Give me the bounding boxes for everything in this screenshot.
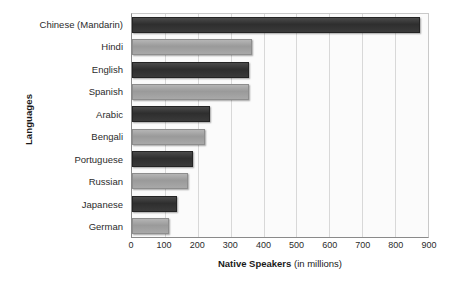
bar-slot [132,81,428,103]
bar[interactable] [132,62,249,78]
x-tick-label: 500 [289,240,304,250]
category-label: English [36,58,127,81]
bar-slot [132,215,428,237]
bar-slot [132,148,428,170]
x-tick-label: 700 [355,240,370,250]
x-axis-tick-labels: 0100200300400500600700800900 [131,240,429,253]
bar-slot [132,170,428,192]
bar-chart: Languages Chinese (Mandarin)HindiEnglish… [0,0,457,285]
category-label: Portuguese [36,148,127,171]
category-label: German [36,216,127,239]
x-tick-label: 600 [322,240,337,250]
category-label: Spanish [36,81,127,104]
category-label: Japanese [36,193,127,216]
x-tick-label: 400 [256,240,271,250]
x-axis-title-regular: (in millions) [291,258,342,269]
bar-series [132,14,428,237]
bar[interactable] [132,39,252,55]
bar-slot [132,103,428,125]
category-label: Arabic [36,103,127,126]
bar-slot [132,59,428,81]
x-tick-label: 200 [190,240,205,250]
bar[interactable] [132,218,169,234]
x-axis-title-bold: Native Speakers [218,258,291,269]
plot-area [131,13,429,238]
bar-slot [132,14,428,36]
x-axis-title: Native Speakers (in millions) [131,258,429,269]
bar[interactable] [132,106,210,122]
bar-slot [132,36,428,58]
x-tick-label: 100 [157,240,172,250]
bar[interactable] [132,17,420,33]
category-label: Hindi [36,36,127,59]
bar[interactable] [132,196,177,212]
bar-slot [132,192,428,214]
x-tick-label: 900 [421,240,436,250]
y-axis-title-text: Languages [24,93,35,144]
x-tick-label: 800 [388,240,403,250]
bar[interactable] [132,129,205,145]
category-label: Russian [36,171,127,194]
bar[interactable] [132,151,193,167]
y-axis-category-labels: Chinese (Mandarin)HindiEnglishSpanishAra… [36,13,127,238]
bar[interactable] [132,84,249,100]
category-label: Chinese (Mandarin) [36,13,127,36]
x-tick-label: 300 [223,240,238,250]
bar[interactable] [132,173,188,189]
bar-slot [132,125,428,147]
x-tick-label: 0 [128,240,133,250]
category-label: Bengali [36,126,127,149]
